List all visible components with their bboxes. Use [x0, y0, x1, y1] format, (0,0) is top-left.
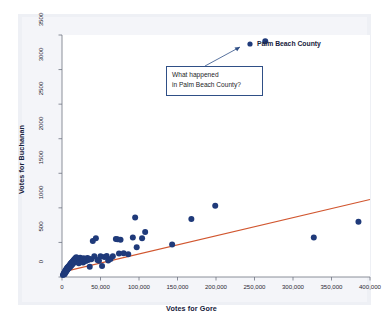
y-tick-label: 1500 — [37, 143, 44, 173]
y-tick-label: 500 — [37, 212, 44, 242]
x-tick-label: 350,000 — [320, 283, 342, 290]
callout-line-1: What happened — [172, 70, 258, 80]
x-axis-title: Votes for Gore — [0, 304, 383, 313]
data-point — [355, 219, 361, 225]
data-point — [132, 215, 138, 221]
data-point — [311, 235, 317, 241]
data-point — [212, 203, 218, 209]
palm-beach-county-label: Palm Beach County — [257, 40, 321, 47]
callout-line-2: in Palm Beach County? — [172, 80, 258, 90]
x-tick-label: 200,000 — [205, 283, 227, 290]
data-point — [169, 242, 175, 248]
data-point — [110, 253, 116, 259]
data-point — [130, 235, 136, 241]
data-point — [188, 216, 194, 222]
y-tick-label: 3500 — [37, 5, 44, 35]
y-axis-ticks — [59, 35, 63, 277]
data-point — [139, 235, 145, 241]
x-tick-label: 0 — [60, 283, 63, 290]
palm-beach-label-marker-icon — [247, 41, 252, 46]
x-tick-label: 300,000 — [282, 283, 304, 290]
x-tick-label: 100,000 — [128, 283, 150, 290]
x-tick-label: 400,000 — [359, 283, 381, 290]
y-axis-title: Votes for Buchanan — [17, 100, 26, 220]
callout-box: What happened in Palm Beach County? — [166, 66, 263, 96]
y-tick-label: 3000 — [37, 39, 44, 69]
y-tick-label: 2500 — [37, 74, 44, 104]
y-tick-label: 2000 — [37, 108, 44, 138]
data-point — [142, 229, 148, 235]
x-axis-ticks — [62, 277, 370, 281]
data-point — [118, 237, 124, 243]
data-point — [93, 235, 99, 241]
x-tick-label: 150,000 — [166, 283, 188, 290]
data-point — [87, 264, 93, 270]
y-tick-label: 0 — [37, 247, 44, 277]
scatter-plot-figure: Votes for Gore Votes for Buchanan 050,00… — [0, 0, 383, 332]
x-tick-label: 250,000 — [243, 283, 265, 290]
data-point — [99, 263, 105, 269]
data-point — [134, 244, 140, 250]
y-tick-label: 1000 — [37, 177, 44, 207]
x-tick-label: 50,000 — [91, 283, 110, 290]
data-point — [125, 251, 131, 257]
